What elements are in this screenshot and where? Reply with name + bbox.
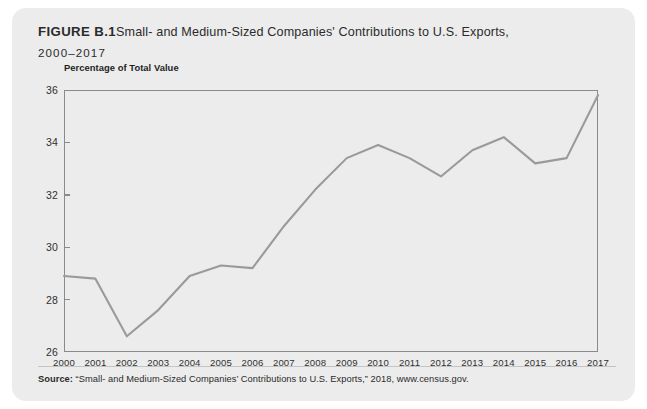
y-tick-label: 30	[28, 241, 58, 253]
footer-divider	[38, 366, 616, 367]
y-tick-mark	[65, 194, 70, 195]
source-note: Source: “Small- and Medium-Sized Compani…	[38, 374, 618, 384]
figure-card: FIGURE B.1Small- and Medium-Sized Compan…	[12, 8, 635, 401]
y-tick-label: 36	[28, 84, 58, 96]
plot-frame	[64, 90, 598, 352]
y-tick-label: 28	[28, 294, 58, 306]
y-tick-label: 34	[28, 136, 58, 148]
y-tick-mark	[65, 299, 70, 300]
y-tick-label: 32	[28, 189, 58, 201]
line-chart: Percentage of Total Value 262830323436 2…	[12, 8, 635, 401]
y-tick-mark	[65, 142, 70, 143]
y-tick-mark	[65, 247, 70, 248]
source-label: Source:	[38, 374, 73, 384]
source-text: “Small- and Medium-Sized Companies’ Cont…	[73, 374, 469, 384]
y-axis-title: Percentage of Total Value	[64, 62, 179, 73]
